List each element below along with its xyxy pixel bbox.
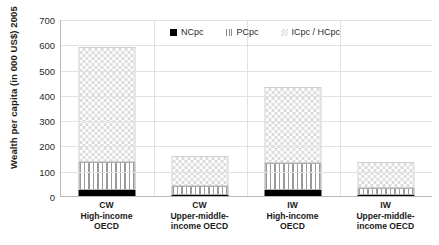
bar-segment-ncpc[interactable] bbox=[357, 195, 414, 196]
bar-segment-icpc-hcpc[interactable] bbox=[172, 156, 229, 186]
x-axis-category: CWUpper-middle-income OECD bbox=[153, 200, 246, 232]
x-axis-category-line: income OECD bbox=[341, 221, 430, 232]
x-axis-category: IWUpper-middle-income OECD bbox=[339, 200, 432, 232]
bar-segment-pcpc[interactable] bbox=[264, 163, 321, 190]
legend-label: PCpc bbox=[237, 27, 259, 37]
y-axis-tick: 700 bbox=[39, 15, 55, 26]
bar-slot bbox=[61, 20, 154, 196]
y-axis-tick: 600 bbox=[39, 40, 55, 51]
y-axis-tick: 200 bbox=[39, 141, 55, 152]
y-axis-tick: 0 bbox=[50, 192, 55, 203]
bar-segment-pcpc[interactable] bbox=[357, 188, 414, 196]
legend-item: NCpc bbox=[170, 27, 204, 37]
x-axis-category: CWHigh-incomeOECD bbox=[60, 200, 153, 232]
legend-label: NCpc bbox=[181, 27, 204, 37]
bar-segment-pcpc[interactable] bbox=[172, 186, 229, 195]
x-axis-category-line: OECD bbox=[62, 221, 151, 232]
bar-slot bbox=[247, 20, 340, 196]
x-axis-category-line: Upper-middle- bbox=[155, 211, 244, 222]
bar-segment-icpc-hcpc[interactable] bbox=[79, 47, 136, 162]
chart-container: Wealth per capita (in 000 US$) 2005 0100… bbox=[0, 0, 439, 245]
bar-slot bbox=[154, 20, 247, 196]
legend-swatch-icon bbox=[226, 29, 233, 36]
stacked-bar[interactable] bbox=[172, 156, 229, 196]
legend-item: ICpc / HCpc bbox=[281, 27, 341, 37]
bar-segment-icpc-hcpc[interactable] bbox=[357, 162, 414, 188]
bar-segment-ncpc[interactable] bbox=[172, 195, 229, 196]
legend-item: PCpc bbox=[226, 27, 259, 37]
gridline-vertical bbox=[247, 20, 248, 196]
x-axis-category-line: Upper-middle- bbox=[341, 211, 430, 222]
plot-area bbox=[60, 20, 432, 197]
legend-swatch-icon bbox=[281, 29, 288, 36]
y-axis-tick: 300 bbox=[39, 116, 55, 127]
x-axis-category: IWHigh-incomeOECD bbox=[246, 200, 339, 232]
y-axis-tick: 100 bbox=[39, 166, 55, 177]
x-axis-category-line: OECD bbox=[248, 221, 337, 232]
bar-segment-ncpc[interactable] bbox=[264, 190, 321, 196]
bar-segment-ncpc[interactable] bbox=[79, 190, 136, 196]
x-axis-category-line: High-income bbox=[248, 211, 337, 222]
bar-segment-pcpc[interactable] bbox=[79, 162, 136, 190]
y-axis-tick: 500 bbox=[39, 65, 55, 76]
stacked-bar[interactable] bbox=[264, 87, 321, 196]
bar-segment-icpc-hcpc[interactable] bbox=[264, 87, 321, 163]
x-axis-category-line: IW bbox=[341, 200, 430, 211]
bar-slot bbox=[339, 20, 432, 196]
legend-label: ICpc / HCpc bbox=[292, 27, 341, 37]
x-axis-category-labels: CWHigh-incomeOECDCWUpper-middle-income O… bbox=[60, 200, 432, 232]
y-axis-title: Wealth per capita (in 000 US$) 2005 bbox=[8, 0, 19, 183]
gridline-vertical bbox=[154, 20, 155, 196]
y-axis-tick: 400 bbox=[39, 90, 55, 101]
x-axis-category-line: income OECD bbox=[155, 221, 244, 232]
y-axis-tick-labels: 0100200300400500600700 bbox=[22, 14, 55, 199]
legend-swatch-icon bbox=[170, 29, 177, 36]
x-axis-category-line: CW bbox=[62, 200, 151, 211]
x-axis-category-line: High-income bbox=[62, 211, 151, 222]
chart-legend: NCpcPCpcICpc / HCpc bbox=[170, 27, 340, 37]
gridline-vertical bbox=[340, 20, 341, 196]
stacked-bar[interactable] bbox=[357, 162, 414, 196]
x-axis-category-line: IW bbox=[248, 200, 337, 211]
x-axis-category-line: CW bbox=[155, 200, 244, 211]
